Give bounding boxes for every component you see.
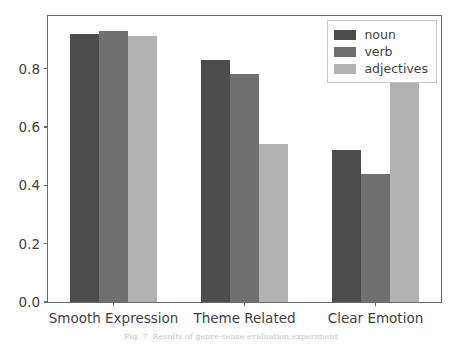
bar (128, 36, 157, 302)
legend-label-verb: verb (364, 43, 392, 60)
x-tick-label: Smooth Expression (49, 309, 179, 327)
bar (230, 74, 259, 302)
x-tickmark (375, 302, 376, 306)
figure: 0.0 0.2 0.4 0.6 0.8 Smooth Expression (0, 0, 462, 348)
y-tickmark (44, 126, 48, 127)
y-tick-label: 0.6 (19, 118, 40, 136)
bar (390, 74, 419, 302)
bar (201, 60, 230, 302)
chart-axes: 0.0 0.2 0.4 0.6 0.8 Smooth Expression (47, 15, 442, 303)
legend-label-noun: noun (364, 26, 395, 43)
y-tickmark (44, 301, 48, 302)
legend-label-adjectives: adjectives (364, 60, 428, 77)
y-tick-label: 0.8 (19, 60, 40, 78)
legend-swatch-noun (334, 30, 356, 40)
y-tickmark (44, 68, 48, 69)
chart-legend: noun verb adjectives (327, 20, 437, 83)
bar (332, 150, 361, 302)
y-tickmark (44, 185, 48, 186)
y-tick-label: 0.0 (19, 293, 40, 311)
x-tick-label: Theme Related (193, 309, 295, 327)
y-tick-label: 0.4 (19, 176, 40, 194)
x-tickmark (113, 302, 114, 306)
bar (361, 174, 390, 302)
x-tickmark (244, 302, 245, 306)
bar (70, 34, 99, 302)
y-tickmark (44, 243, 48, 244)
legend-swatch-adjectives (334, 64, 356, 74)
legend-item-adjectives[interactable]: adjectives (334, 60, 428, 77)
figure-caption: Fig. 7. Results of genre-sense evaluatio… (0, 332, 462, 341)
bar (99, 31, 128, 302)
legend-item-verb[interactable]: verb (334, 43, 428, 60)
y-tick-label: 0.2 (19, 235, 40, 253)
bar (259, 144, 288, 302)
x-tick-label: Clear Emotion (328, 309, 423, 327)
legend-swatch-verb (334, 47, 356, 57)
legend-item-noun[interactable]: noun (334, 26, 428, 43)
